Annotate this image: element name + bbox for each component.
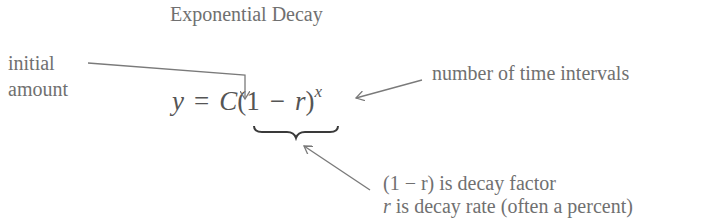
annotation-arrows	[0, 0, 723, 224]
time-intervals-arrow-icon	[356, 80, 422, 98]
initial-amount-arrow-icon	[88, 63, 245, 99]
underbrace-icon	[254, 126, 338, 138]
decay-factor-arrow-icon	[304, 146, 370, 190]
